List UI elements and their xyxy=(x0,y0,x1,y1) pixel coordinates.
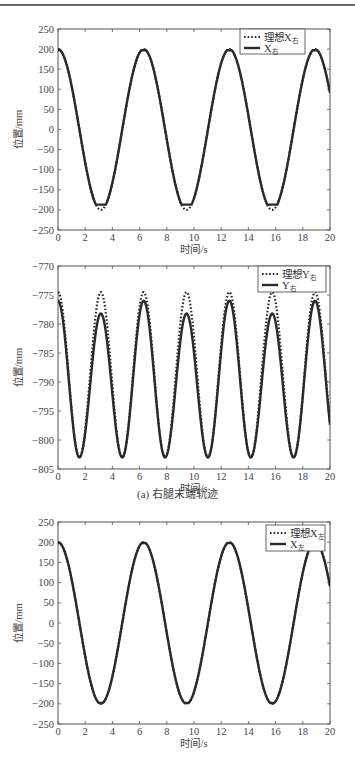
x-tick-label: 10 xyxy=(189,726,200,737)
y-tick-label: 50 xyxy=(44,104,55,115)
y-tick-label: 50 xyxy=(44,597,55,608)
y-tick-label: 250 xyxy=(38,24,54,35)
y-tick-label: −150 xyxy=(32,184,54,195)
y-tick-label: −790 xyxy=(32,377,54,388)
y-axis-title: 位置/mm xyxy=(12,603,24,642)
y-tick-label: 200 xyxy=(38,44,54,55)
legend-label-subscript: 右 xyxy=(290,284,297,293)
legend: 理想X右X右 xyxy=(240,29,305,56)
x-tick-label: 12 xyxy=(216,232,227,243)
y-tick-label: −795 xyxy=(32,406,54,417)
figure-canvas: 02468101214161820250200150100500−50−100−… xyxy=(0,0,355,761)
legend-label-subscript: 右 xyxy=(310,273,317,282)
x-tick-label: 4 xyxy=(110,232,116,243)
y-tick-label: −200 xyxy=(32,204,54,215)
x-tick-label: 20 xyxy=(325,471,336,482)
legend-label-main: 理想Y xyxy=(282,268,310,280)
y-tick-label: 250 xyxy=(38,517,54,528)
x-tick-label: 2 xyxy=(83,726,88,737)
x-tick-label: 0 xyxy=(55,471,60,482)
y-tick-label: −780 xyxy=(32,319,54,330)
y-tick-label: −770 xyxy=(32,261,54,272)
legend-label-subscript: 左 xyxy=(298,543,305,551)
x-tick-label: 10 xyxy=(189,232,200,243)
x-tick-label: 16 xyxy=(270,726,281,737)
y-axis-title: 位置/mm xyxy=(12,348,24,387)
actual-series-line xyxy=(58,543,330,703)
y-tick-label: 150 xyxy=(38,64,54,75)
y-tick-label: 150 xyxy=(38,557,54,568)
y-tick-label: −100 xyxy=(32,164,54,175)
x-tick-label: 20 xyxy=(325,232,336,243)
x-tick-label: 12 xyxy=(216,471,227,482)
y-tick-label: −200 xyxy=(32,698,54,709)
legend-label-subscript: 右 xyxy=(292,36,299,45)
x-tick-label: 8 xyxy=(164,232,169,243)
chart-plot2: 02468101214161820−770−775−780−785−790−79… xyxy=(12,261,335,495)
x-tick-label: 10 xyxy=(189,471,200,482)
legend: 理想Y右Y右 xyxy=(258,266,326,293)
y-tick-label: 0 xyxy=(49,618,54,629)
y-tick-label: 100 xyxy=(38,84,54,95)
y-tick-label: 100 xyxy=(38,577,54,588)
x-tick-label: 18 xyxy=(298,726,309,737)
figure-caption: (a) 右腿末端轨迹 xyxy=(0,485,355,501)
actual-series-line xyxy=(58,301,330,458)
ideal-series-line xyxy=(58,49,330,210)
x-tick-label: 16 xyxy=(270,232,281,243)
y-tick-label: −250 xyxy=(32,225,54,236)
x-tick-label: 12 xyxy=(216,726,227,737)
actual-series-line xyxy=(58,50,330,204)
x-tick-label: 8 xyxy=(164,726,169,737)
y-tick-label: −100 xyxy=(32,658,54,669)
legend-label-main: 理想X xyxy=(290,527,318,539)
x-tick-label: 2 xyxy=(83,232,88,243)
x-tick-label: 4 xyxy=(110,471,116,482)
x-axis-title: 时间/s xyxy=(180,243,207,255)
x-tick-label: 14 xyxy=(243,726,254,737)
x-axis-title: 时间/s xyxy=(180,737,207,749)
x-tick-label: 14 xyxy=(243,232,254,243)
legend-label-main: 理想X xyxy=(264,31,292,43)
x-tick-label: 4 xyxy=(110,726,116,737)
x-tick-label: 14 xyxy=(243,471,254,482)
chart-plot3: 02468101214161820250200150100500−50−100−… xyxy=(12,517,335,750)
y-tick-label: 0 xyxy=(49,124,54,135)
legend-label-subscript: 右 xyxy=(272,47,279,56)
y-tick-label: −250 xyxy=(32,719,54,730)
ideal-series-line xyxy=(58,542,330,704)
x-tick-label: 6 xyxy=(137,726,142,737)
chart-plot1: 02468101214161820250200150100500−50−100−… xyxy=(12,24,335,256)
x-tick-label: 16 xyxy=(270,471,281,482)
x-tick-label: 8 xyxy=(164,471,169,482)
y-tick-label: −50 xyxy=(38,144,54,155)
y-tick-label: −150 xyxy=(32,678,54,689)
x-tick-label: 6 xyxy=(137,232,142,243)
x-tick-label: 18 xyxy=(298,232,309,243)
y-tick-label: 200 xyxy=(38,537,54,548)
legend-label-subscript: 左 xyxy=(318,532,325,540)
y-tick-label: −805 xyxy=(32,464,54,475)
x-tick-label: 0 xyxy=(55,232,60,243)
y-tick-label: −50 xyxy=(38,638,54,649)
x-tick-label: 18 xyxy=(298,471,309,482)
x-tick-label: 0 xyxy=(55,726,60,737)
y-tick-label: −800 xyxy=(32,435,54,446)
y-tick-label: −785 xyxy=(32,348,54,359)
x-tick-label: 6 xyxy=(137,471,142,482)
x-tick-label: 20 xyxy=(325,726,336,737)
x-tick-label: 2 xyxy=(83,471,88,482)
y-tick-label: −775 xyxy=(32,290,54,301)
y-axis-title: 位置/mm xyxy=(12,110,24,149)
legend: 理想X左X左 xyxy=(266,525,325,551)
